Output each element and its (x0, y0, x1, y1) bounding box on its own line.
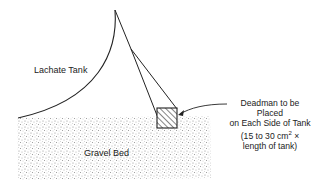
arrowhead-icon (178, 110, 184, 116)
dimension-suffix: × (292, 131, 299, 141)
gravel-bed-label: Gravel Bed (84, 148, 129, 158)
tank-wall-curve (18, 10, 115, 118)
deadman-annotation-line-4: length of tank) (227, 141, 313, 151)
deadman-annotation-line-1: Deadman to be Placed (227, 98, 313, 118)
deadman-annotation-line-3: (15 to 30 cm2 × (227, 128, 313, 141)
deadman-annotation: Deadman to be Placed on Each Side of Tan… (227, 98, 313, 151)
cable-to-box-left (131, 49, 158, 118)
diagram-canvas (0, 0, 320, 188)
cable-upper (115, 10, 131, 49)
cable-to-box-right (131, 49, 177, 109)
dimension-prefix: (15 to 30 cm (241, 131, 289, 141)
deadman-annotation-line-2: on Each Side of Tank (227, 118, 313, 128)
deadman-block (157, 108, 177, 128)
tank-label: Lachate Tank (34, 65, 87, 75)
deadman-leader-line (180, 104, 227, 114)
